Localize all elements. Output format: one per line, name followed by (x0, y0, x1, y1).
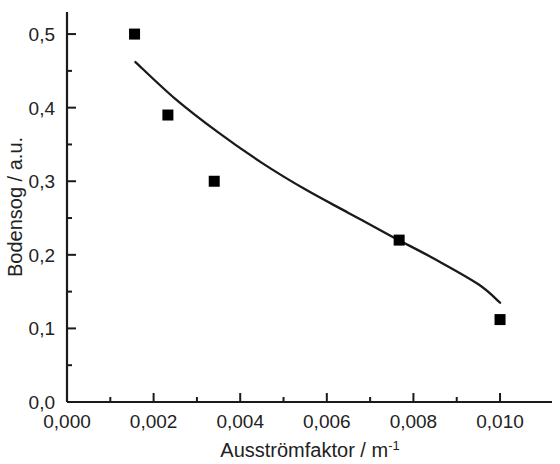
fit-curve-line (135, 62, 500, 303)
x-tick-label: 0,006 (303, 411, 351, 432)
x-axis-title-text: Ausströmfaktor / m (220, 439, 388, 461)
y-axis-ticks: 0,00,10,20,30,40,5 (29, 24, 76, 413)
y-tick-label: 0,2 (29, 245, 55, 266)
x-tick-label: 0,008 (390, 411, 438, 432)
data-point-marker (394, 235, 405, 246)
y-axis-title: Bodensog / a.u. (4, 137, 26, 277)
y-tick-label: 0,0 (29, 392, 55, 413)
x-tick-label: 0,000 (43, 411, 91, 432)
scatter-plot: 0,0000,0020,0040,0060,0080,010 0,00,10,2… (0, 0, 560, 464)
x-tick-label: 0,004 (216, 411, 264, 432)
x-axis-title: Ausströmfaktor / m-1 (220, 438, 399, 461)
data-point-marker (209, 176, 220, 187)
data-point-marker (162, 110, 173, 121)
y-tick-label: 0,3 (29, 171, 55, 192)
data-point-markers (129, 29, 505, 326)
x-tick-label: 0,010 (476, 411, 524, 432)
data-point-marker (495, 314, 506, 325)
chart-figure: 0,0000,0020,0040,0060,0080,010 0,00,10,2… (0, 0, 560, 464)
y-tick-label: 0,5 (29, 24, 55, 45)
data-point-marker (129, 29, 140, 40)
x-axis-ticks: 0,0000,0020,0040,0060,0080,010 (43, 393, 524, 432)
x-tick-label: 0,002 (130, 411, 178, 432)
x-axis-title-superscript: -1 (388, 438, 400, 453)
y-tick-label: 0,1 (29, 318, 55, 339)
y-tick-label: 0,4 (29, 98, 56, 119)
